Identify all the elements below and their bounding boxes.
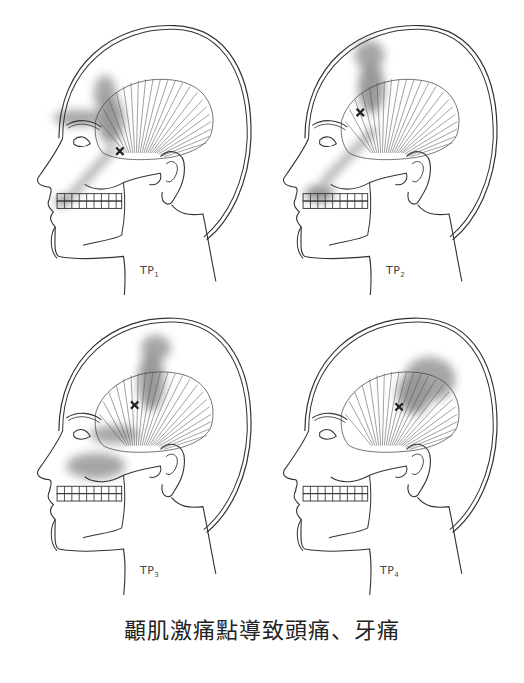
head-illustration <box>22 0 262 295</box>
tp1-label: TP1 <box>140 264 159 279</box>
head-illustration <box>22 300 262 595</box>
tp4-label: TP4 <box>380 564 399 579</box>
trigger-point-marker-icon <box>357 109 364 116</box>
trigger-point-marker-icon <box>131 401 138 408</box>
trigger-point-marker-icon <box>116 148 123 155</box>
diagram-panel-tp3: TP3 <box>22 300 262 595</box>
figure-caption: 顳肌激痛點導致頭痛、牙痛 <box>0 612 524 644</box>
tp2-label: TP2 <box>386 264 405 279</box>
tp3-label: TP3 <box>140 564 159 579</box>
diagram-panel-tp4: TP4 <box>268 300 508 595</box>
diagram-panel-tp2: TP2 <box>268 0 508 295</box>
diagram-panel-tp1: TP1 <box>22 0 262 295</box>
head-illustration <box>268 0 508 295</box>
head-illustration <box>268 300 508 595</box>
